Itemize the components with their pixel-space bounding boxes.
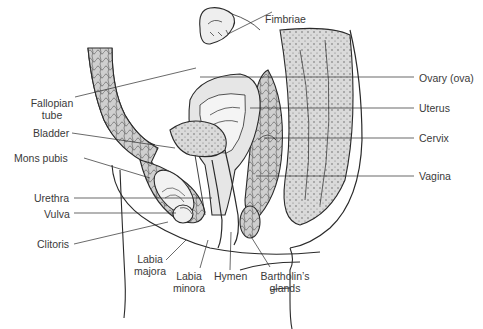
label-fallopian-tube: Fallopian tube <box>28 97 76 121</box>
label-bartholins-glands: Bartholin’s glands <box>255 270 315 294</box>
label-bartholins-line2: glands <box>255 282 315 294</box>
label-fimbriae: Fimbriae <box>265 13 306 25</box>
label-labia-majora-line1: Labia <box>130 253 170 265</box>
label-vulva: Vulva <box>44 208 70 220</box>
label-uterus: Uterus <box>419 102 450 114</box>
label-vagina: Vagina <box>419 170 451 182</box>
label-labia-majora-line2: majora <box>130 265 170 277</box>
label-ovary: Ovary (ova) <box>419 72 474 84</box>
label-fallopian-line2: tube <box>28 109 76 121</box>
label-hymen: Hymen <box>214 270 247 282</box>
label-labia-minora-line2: minora <box>169 282 209 294</box>
label-labia-minora: Labia minora <box>169 270 209 294</box>
label-fallopian-line1: Fallopian <box>28 97 76 109</box>
anatomy-diagram: Fimbriae Fallopian tube Bladder Mons pub… <box>0 0 483 329</box>
label-urethra: Urethra <box>34 192 69 204</box>
label-labia-majora: Labia majora <box>130 253 170 277</box>
label-mons-pubis: Mons pubis <box>14 152 68 164</box>
label-cervix: Cervix <box>419 132 449 144</box>
label-bartholins-line1: Bartholin’s <box>255 270 315 282</box>
label-clitoris: Clitoris <box>37 238 69 250</box>
label-labia-minora-line1: Labia <box>169 270 209 282</box>
label-bladder: Bladder <box>33 127 69 139</box>
